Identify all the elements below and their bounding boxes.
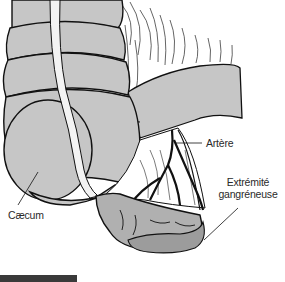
extremite-leader [204, 208, 238, 240]
anatomy-illustration [0, 0, 285, 282]
label-artere: Artère [206, 137, 233, 149]
label-extremite-gangreneuse: Extrémité gangréneuse [218, 176, 278, 200]
appendicitis-diagram: Artère Extrémité gangréneuse Cæcum [0, 0, 285, 282]
ascending-colon [3, 0, 140, 205]
label-extremite-line2: gangréneuse [218, 188, 278, 200]
bottom-bar [0, 275, 77, 282]
ileum [128, 64, 242, 138]
label-extremite-line1: Extrémité [218, 176, 278, 188]
label-caecum: Cæcum [8, 209, 44, 221]
